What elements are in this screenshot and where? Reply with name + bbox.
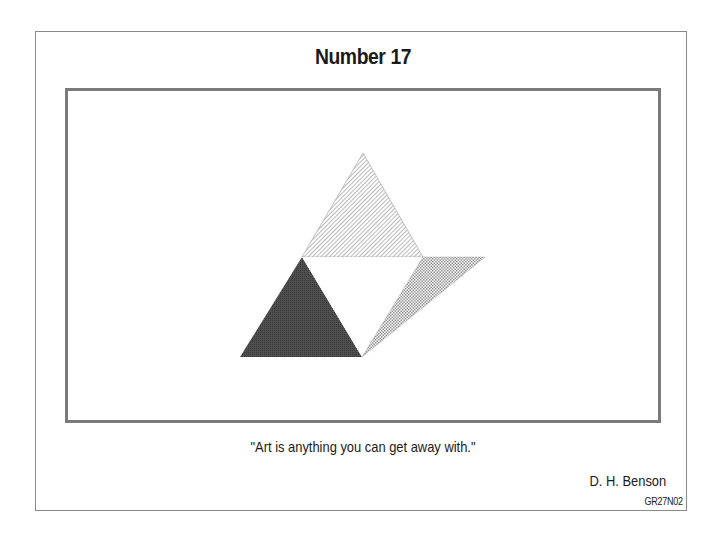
- artwork: [0, 0, 726, 539]
- quote-text: "Art is anything you can get away with.": [51, 438, 675, 455]
- author-name: D. H. Benson: [589, 472, 666, 489]
- top-triangle: [302, 153, 423, 257]
- slide-code: GR27N02: [645, 495, 683, 507]
